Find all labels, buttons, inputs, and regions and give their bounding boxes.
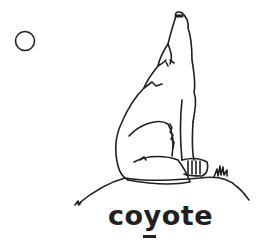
moon-icon xyxy=(16,32,35,51)
letter-underline xyxy=(143,235,156,238)
vocabulary-card: coyote xyxy=(0,0,261,252)
vocabulary-word: coyote xyxy=(0,200,261,231)
grass-tuft xyxy=(214,166,227,177)
